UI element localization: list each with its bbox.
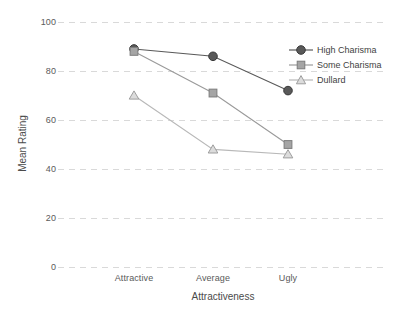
legend-label-dullard: Dullard [317, 75, 346, 85]
legend: High Charisma Some Charisma Dullard [288, 42, 382, 87]
x-axis-title: Attractiveness [58, 291, 388, 302]
series-lines [134, 49, 288, 154]
legend-item-high-charisma: High Charisma [288, 42, 382, 57]
y-tick-label-20: 20 [22, 213, 56, 223]
x-tick-label-average: Average [173, 273, 253, 283]
legend-label-some-charisma: Some Charisma [317, 60, 382, 70]
legend-key-circle-icon [288, 43, 314, 57]
legend-item-some-charisma: Some Charisma [288, 57, 382, 72]
legend-label-high-charisma: High Charisma [317, 45, 377, 55]
legend-key-square-icon [288, 58, 314, 72]
chart-container: 100 80 60 40 20 0 Attractive Average Ugl… [0, 0, 403, 318]
legend-key-triangle-icon [288, 73, 314, 87]
y-tick-label-100: 100 [22, 17, 56, 27]
x-tick-label-attractive: Attractive [94, 273, 174, 283]
y-tick-label-0: 0 [22, 262, 56, 272]
legend-item-dullard: Dullard [288, 72, 382, 87]
x-tick-label-ugly: Ugly [248, 273, 328, 283]
y-tick-label-80: 80 [22, 66, 56, 76]
y-axis-title: Mean Rating [17, 99, 28, 189]
